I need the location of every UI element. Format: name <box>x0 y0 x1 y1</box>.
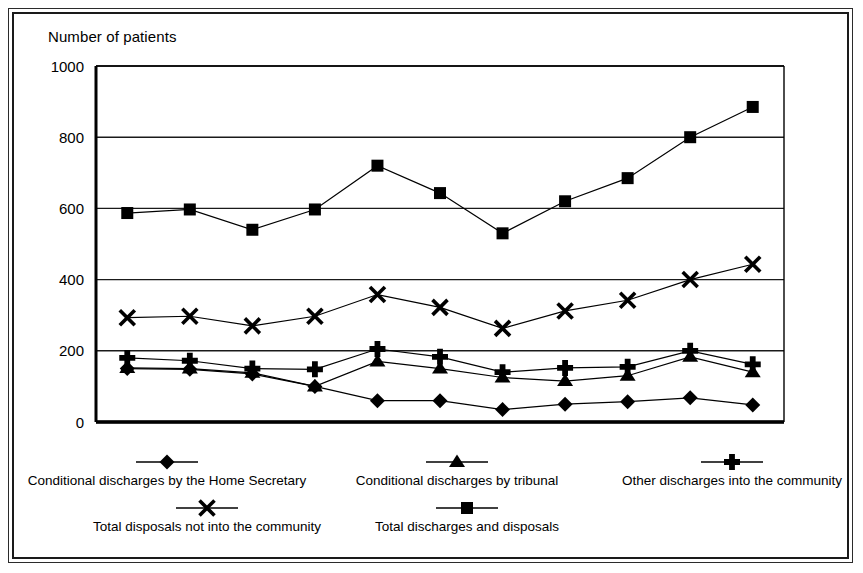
legend-item-conditional-tribunal: Conditional discharges by tribunal <box>332 452 582 488</box>
legend-label: Conditional discharges by tribunal <box>332 473 582 488</box>
legend-item-other-discharges: Other discharges into the community <box>612 452 852 488</box>
square-marker-icon <box>342 498 592 518</box>
plus-marker-icon <box>612 452 852 472</box>
legend-label: Total discharges and disposals <box>342 519 592 534</box>
series-line <box>127 264 752 328</box>
legend-row-2: Total disposals not into the community T… <box>22 498 840 544</box>
legend-item-total-disposals: Total disposals not into the community <box>62 498 352 534</box>
triangle-marker-icon <box>332 452 582 472</box>
y-axis-tick-label: 200 <box>59 342 84 359</box>
chart-page: Number of patients 020040060080010001980… <box>0 0 863 573</box>
diamond-marker-icon <box>22 452 312 472</box>
plot-area: 0200400600800100019801981198219831984198… <box>36 58 796 430</box>
y-axis-tick-label: 0 <box>76 414 84 431</box>
line-chart: 0200400600800100019801981198219831984198… <box>36 58 796 430</box>
legend-row-1: Conditional discharges by the Home Secre… <box>22 452 840 498</box>
legend-label: Total disposals not into the community <box>62 519 352 534</box>
legend-label: Other discharges into the community <box>612 473 852 488</box>
y-axis-title: Number of patients <box>48 28 177 45</box>
legend-item-conditional-home-secretary: Conditional discharges by the Home Secre… <box>22 452 312 488</box>
y-axis-tick-label: 600 <box>59 200 84 217</box>
chart-legend: Conditional discharges by the Home Secre… <box>22 452 840 547</box>
y-axis-tick-label: 1000 <box>51 58 84 75</box>
series-markers <box>120 257 760 336</box>
legend-label: Conditional discharges by the Home Secre… <box>22 473 312 488</box>
series-markers <box>119 341 760 380</box>
series-line <box>127 107 752 233</box>
cross-marker-icon <box>62 498 352 518</box>
y-axis-tick-label: 400 <box>59 271 84 288</box>
legend-item-total-discharges: Total discharges and disposals <box>342 498 592 534</box>
y-axis-tick-label: 800 <box>59 129 84 146</box>
